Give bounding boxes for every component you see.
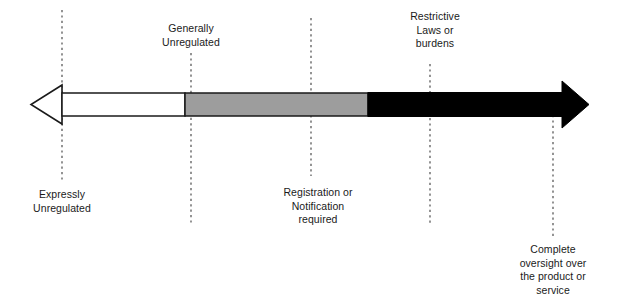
segment-generally-unregulated bbox=[185, 93, 368, 116]
label-expressly-unregulated: Expressly Unregulated bbox=[0, 188, 127, 215]
left-arrowhead-icon bbox=[31, 85, 62, 124]
label-restrictive-laws: Restrictive Laws or burdens bbox=[370, 10, 500, 51]
segment-restrictive bbox=[368, 93, 563, 117]
label-registration-notification: Registration or Notification required bbox=[248, 186, 388, 227]
label-generally-unregulated: Generally Unregulated bbox=[126, 22, 256, 49]
label-complete-oversight: Complete oversight over the product or s… bbox=[483, 243, 623, 297]
regulation-spectrum-diagram: Generally Unregulated Restrictive Laws o… bbox=[0, 0, 626, 298]
segment-expressly-unregulated bbox=[62, 93, 185, 116]
right-arrowhead-icon bbox=[562, 81, 589, 128]
